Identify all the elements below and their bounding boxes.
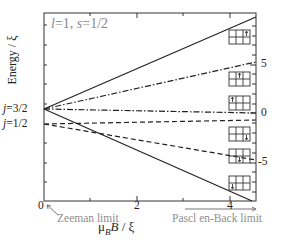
plot-frame [44, 13, 256, 201]
y-axis-label: Energy / ξ [2, 20, 22, 100]
x-tick-2: 2 [134, 199, 140, 211]
j-one-half-label: j=1/2 [3, 117, 27, 129]
x-tick-4: 4 [227, 199, 233, 211]
orbital-box-up-2 [229, 72, 250, 86]
line-j32-mjm12 [44, 109, 256, 113]
chart-title: l=1, s=1/2 [51, 16, 108, 32]
line-j32-mjm32 [44, 109, 252, 201]
line-j12-mjm12 [44, 124, 256, 160]
orbital-box-up-3 [229, 30, 250, 44]
y-tick-minus-5: -5 [258, 155, 268, 167]
y-tick-5: 5 [261, 57, 267, 69]
series-lines [44, 17, 256, 201]
right-ticks [250, 26, 256, 192]
paschen-arrow-icon [185, 207, 256, 211]
orbital-box-down-1 [229, 176, 250, 190]
orbital-diagrams [229, 30, 250, 190]
y-tick-0: 0 [261, 106, 267, 118]
j-three-halves-label: j=3/2 [3, 102, 27, 114]
zeeman-limit-annotation: Zeeman limit [57, 212, 119, 224]
orbital-box-up-1 [229, 96, 250, 110]
orbital-box-down-2 [229, 149, 250, 163]
orbital-box-down-3 [229, 127, 250, 141]
line-j32-mj12 [44, 62, 256, 109]
x-tick-0: 0 [38, 199, 44, 211]
paschen-back-limit-annotation: Pascl en-Back limit [172, 212, 262, 224]
x-ticks [90, 13, 230, 201]
